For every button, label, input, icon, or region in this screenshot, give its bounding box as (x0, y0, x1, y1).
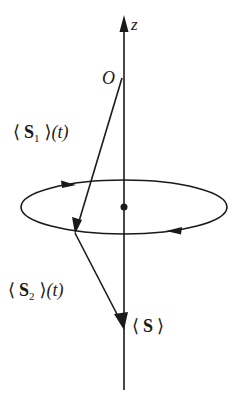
vector-s2 (75, 233, 120, 320)
z-axis-arrowhead-icon (120, 15, 129, 32)
vector-s1-label: ⟨S1⟩(t) (13, 122, 69, 144)
ellipse-direction-arrow-top-icon (61, 181, 76, 189)
vector-s-total-label: ⟨S⟩ (132, 316, 164, 336)
ellipse-center-dot (121, 204, 128, 211)
vector-s2-label: ⟨S2⟩(t) (8, 280, 64, 302)
vector-s2-arrowhead-icon (114, 312, 128, 330)
vector-s1 (77, 78, 122, 228)
z-axis-label: z (130, 15, 138, 34)
precession-diagram: z O ⟨S1⟩(t) ⟨S2⟩(t) ⟨S⟩ (0, 0, 237, 399)
ellipse-direction-arrow-bottom-icon (166, 227, 182, 235)
origin-label: O (102, 68, 115, 88)
